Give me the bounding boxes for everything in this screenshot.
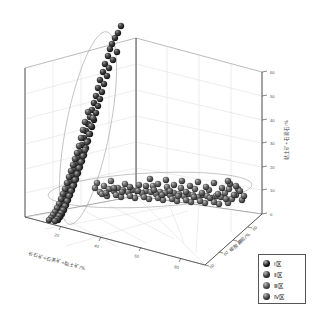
data-point [108,178,114,184]
figure-3d-scatter: 0 10 20 30 40 50 60 黏土矿+石膏石/% 50 60 70 8… [0,0,312,316]
y-tick-80: 80 [251,224,258,231]
data-point [105,53,111,59]
x-tick-60: 60 [134,253,140,259]
legend-label: Ⅰ区 [274,260,282,268]
data-point [70,162,76,168]
data-point [114,49,120,55]
data-point [163,177,169,183]
data-point [52,218,58,224]
data-point [207,195,213,201]
data-point [111,185,117,191]
data-point [107,46,113,52]
data-point [183,189,189,195]
data-point [76,143,82,149]
data-point [72,177,78,183]
data-point [78,135,84,141]
data-point [179,178,185,184]
data-point [66,174,72,180]
data-point [197,198,203,204]
data-point [78,159,84,165]
data-point [151,187,157,193]
z-tick-30: 30 [270,141,275,146]
data-point [76,165,82,171]
data-point [203,184,209,190]
data-point [171,182,177,188]
data-point [80,153,86,159]
data-point [112,35,118,41]
data-point [92,185,98,191]
data-point [231,192,237,198]
data-point [82,147,88,153]
data-point [118,23,124,29]
data-point [74,150,80,156]
data-point [46,217,52,223]
z-axis: 0 10 20 30 40 50 60 黏土矿+石膏石/% [262,70,290,217]
legend-item-4[interactable]: Ⅳ区 [263,291,302,302]
z-tick-50: 50 [270,94,275,99]
data-point [95,103,101,109]
data-point [135,188,141,194]
data-point [64,180,70,186]
legend-marker-icon [263,271,270,278]
data-point [74,171,80,177]
data-point [237,188,243,194]
data-point [80,127,86,133]
x-tick-20: 20 [54,232,60,238]
z-tick-60: 60 [270,70,275,75]
legend-item-1[interactable]: Ⅰ区 [263,258,302,269]
data-point [86,131,92,137]
data-point [223,196,229,202]
data-point [233,183,239,189]
data-point [136,182,142,188]
data-point [178,185,184,191]
data-point [85,109,91,115]
legend-label: Ⅳ区 [274,293,285,301]
legend-item-3[interactable]: Ⅲ区 [263,280,302,291]
data-point [219,185,225,191]
legend-label: Ⅲ区 [274,282,284,290]
data-point [183,197,189,203]
data-point [155,181,161,187]
data-point [110,57,116,63]
data-point [97,96,103,102]
data-point [88,123,94,129]
data-point [159,192,165,198]
legend-label: Ⅱ区 [274,271,283,279]
z-tick-10: 10 [270,188,275,193]
data-point [127,193,133,199]
z-axis-title: 黏土矿+石膏石/% [283,120,290,160]
y-tick-50: 50 [208,262,215,269]
data-point [195,179,201,185]
data-point [84,139,90,145]
data-point [72,156,78,162]
data-point [225,178,231,184]
data-point [175,193,181,199]
data-point [90,115,96,121]
legend-marker-icon [263,260,270,267]
legend-marker-icon [263,282,270,289]
data-point [215,191,221,197]
legend-marker-icon [263,293,270,300]
data-point [119,189,125,195]
x-tick-80: 80 [174,264,180,270]
data-point [147,176,153,182]
data-point [82,119,88,125]
data-point [99,89,105,95]
data-point [199,190,205,196]
data-point [68,168,74,174]
data-point [141,194,147,200]
data-point [191,194,197,200]
x-axis-title: 长石矿+石英矿+黏土矿/% [27,250,86,272]
x-tick-40: 40 [94,243,100,249]
legend-item-2[interactable]: Ⅱ区 [263,269,302,280]
data-point [106,65,112,71]
legend-box: Ⅰ区Ⅱ区Ⅲ区Ⅳ区 [258,254,306,304]
z-tick-40: 40 [270,118,275,123]
z-tick-0: 0 [270,212,273,217]
data-point [101,81,107,87]
data-point [103,190,109,196]
data-point [104,73,110,79]
data-point [187,183,193,189]
data-point [241,193,247,199]
z-tick-20: 20 [270,165,275,170]
